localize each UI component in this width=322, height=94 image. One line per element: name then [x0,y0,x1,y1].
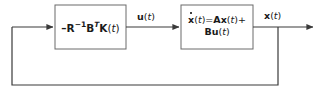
R-exponent: −1 [75,20,87,29]
matrix-A: A [213,14,220,25]
block-diagram-canvas: –R−1BTK(t) x(t)=Ax(t)+ Bu(t) u(t) x(t) [0,0,322,94]
state-signal-label: x(t) [264,10,281,21]
plant-block-label: x(t)=Ax(t)+ Bu(t) [181,14,253,38]
close-paren: ) [151,11,155,22]
control-signal-label: u(t) [137,11,155,22]
plus-sign: + [238,14,246,25]
matrix-R: R [67,22,75,34]
close-paren: ) [226,26,230,37]
plant-equation-line-2: Bu(t) [181,26,253,38]
x-dot-variable: x [188,14,194,25]
control-symbol: u [137,11,144,22]
plant-equation-line-1: x(t)=Ax(t)+ [181,14,253,26]
matrix-B: B [204,26,211,37]
gain-block-label: –R−1BTK(t) [55,20,126,35]
close-paren: ) [278,10,282,21]
close-paren: ) [116,22,120,34]
